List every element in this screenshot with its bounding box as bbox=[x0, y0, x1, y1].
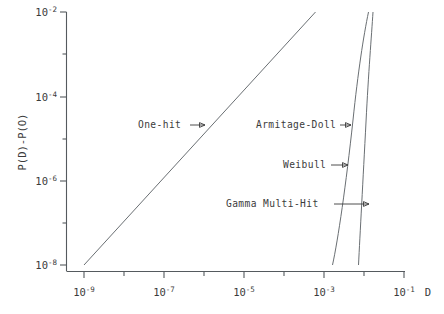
y-tick-label-1e-2: 10-2 bbox=[35, 5, 57, 18]
annotation-label-armitage-doll: Armitage-Doll bbox=[256, 119, 336, 130]
annotation-one-hit: One-hit bbox=[138, 119, 205, 130]
y-tick-label-1e-6: 10-6 bbox=[35, 174, 57, 187]
y-tick-label-1e-4: 10-4 bbox=[35, 90, 57, 103]
x-tick-label-1e-3: 10-3 bbox=[313, 285, 335, 298]
y-axis-title: P(D)-P(O) bbox=[16, 114, 28, 171]
curve-gamma-multi-hit bbox=[359, 12, 374, 265]
y-tick-labels: 10-2 10-4 10-6 10-8 bbox=[35, 5, 57, 271]
chart-figure: 10-2 10-4 10-6 10-8 10-9 10-7 10-5 10-3 … bbox=[0, 0, 444, 314]
curve-one-hit bbox=[84, 12, 316, 265]
annotation-label-gamma-multi-hit: Gamma Multi-Hit bbox=[226, 198, 319, 209]
annotation-label-weibull: Weibull bbox=[283, 159, 326, 170]
x-tick-label-1e-7: 10-7 bbox=[153, 285, 175, 298]
y-tick-label-1e-8: 10-8 bbox=[35, 258, 57, 271]
x-axis bbox=[67, 272, 406, 279]
x-tick-label-1e-9: 10-9 bbox=[73, 285, 95, 298]
x-axis-title: D bbox=[425, 286, 431, 298]
chart-canvas: 10-2 10-4 10-6 10-8 10-9 10-7 10-5 10-3 … bbox=[0, 0, 444, 314]
annotation-weibull: Weibull bbox=[283, 159, 348, 170]
annotation-armitage-doll: Armitage-Doll bbox=[256, 119, 351, 130]
annotation-label-one-hit: One-hit bbox=[138, 119, 181, 130]
y-axis bbox=[60, 12, 67, 271]
curve-armitage-doll bbox=[333, 12, 369, 265]
annotation-gamma-multi-hit: Gamma Multi-Hit bbox=[226, 198, 369, 209]
x-tick-labels: 10-9 10-7 10-5 10-3 10-1 bbox=[73, 285, 415, 298]
x-tick-label-1e-5: 10-5 bbox=[233, 285, 255, 298]
x-tick-label-1e-1: 10-1 bbox=[393, 285, 415, 298]
